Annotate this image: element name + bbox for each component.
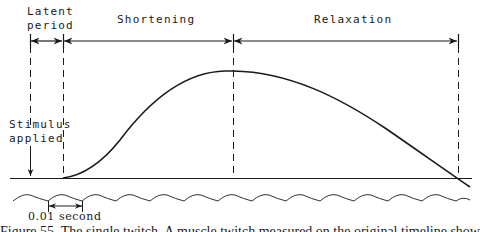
label-latent-line2: period	[27, 19, 74, 32]
phase-boundaries	[31, 34, 459, 178]
label-stimulus-line1: Stimulus	[9, 118, 72, 131]
figure-caption: Figure 55. The single twitch. A muscle t…	[0, 223, 480, 232]
label-shortening: Shortening	[117, 13, 195, 26]
label-latent-line1: Latent	[27, 5, 74, 18]
muscle-twitch-diagram	[0, 0, 480, 232]
label-stimulus-line2: applied	[9, 132, 64, 145]
twitch-curve	[63, 71, 470, 187]
label-relaxation: Relaxation	[314, 13, 392, 26]
label-time-marker: 0.01 second	[28, 210, 102, 223]
time-wave	[13, 195, 470, 201]
